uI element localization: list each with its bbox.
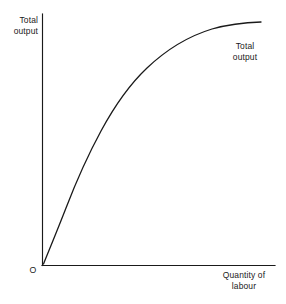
curve-annotation-label: Total output: [218, 41, 271, 62]
y-axis-title: Total output: [3, 15, 38, 36]
total-output-figure: Total output Total output Quantity of la…: [0, 0, 286, 304]
origin-label: O: [27, 265, 38, 276]
x-axis-title: Quantity of labour: [207, 270, 281, 291]
